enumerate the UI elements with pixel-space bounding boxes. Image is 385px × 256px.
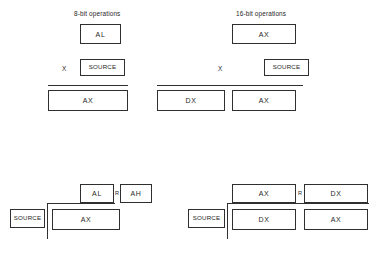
div8-quotient-box-al: AL [80,184,114,203]
div8-remainder-label: R [115,191,119,197]
div8-remainder-box-ah: AH [120,184,152,203]
mul16-result-rule [157,85,303,86]
div16-remainder-label: R [298,191,302,197]
mul16-operator-symbol: X [218,66,222,72]
mul8-source-box: SOURCE [80,59,125,76]
div16-source-box: SOURCE [188,209,225,228]
div16-dividend-box-ax: AX [304,209,368,230]
register-operations-diagram: 8-bit operations AL X SOURCE AX 16-bit o… [0,0,385,256]
div8-source-box: SOURCE [10,209,45,228]
div16-quotient-box-ax: AX [232,184,296,203]
div8-division-bar [47,203,48,239]
mul8-operator-symbol: X [62,66,66,72]
div16-dividend-rule [227,203,369,204]
caption-16bit-operations: 16-bit operations [236,11,286,17]
div16-division-bar [227,203,228,239]
mul16-result-box-dx: DX [157,90,225,111]
mul16-operand-box: AX [232,24,296,44]
mul16-result-box-ax: AX [232,90,296,111]
div8-dividend-box-ax: AX [52,209,120,230]
mul8-operand-box: AL [80,24,121,44]
div16-dividend-box-dx: DX [232,209,296,230]
mul8-result-rule [48,85,128,86]
div16-remainder-box-dx: DX [304,184,368,203]
mul16-source-box: SOURCE [264,59,309,76]
div8-dividend-rule [47,203,115,204]
mul8-result-box-ax: AX [48,90,128,111]
caption-8bit-operations: 8-bit operations [74,11,120,17]
